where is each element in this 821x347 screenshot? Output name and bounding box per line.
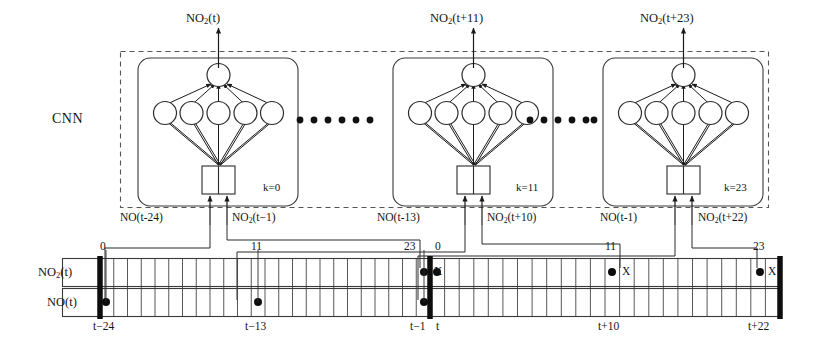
index-marker-future-11: 11	[605, 241, 616, 253]
predicted-marker-23: X	[768, 266, 776, 278]
index-marker-past-23: 23	[404, 241, 416, 253]
input-label-k23-no2: NO2(t+22)	[698, 212, 747, 225]
tick-label-t-1: t−1	[410, 321, 425, 333]
index-marker-past-11: 11	[251, 241, 262, 253]
input-arrows-k23	[675, 196, 692, 225]
cnn-group-label: CNN	[52, 112, 83, 126]
input-label-k11-no: NO(t-13)	[377, 212, 420, 224]
tick-label-t-24: t−24	[93, 321, 114, 333]
k-index-label-k0: k=0	[263, 182, 280, 193]
index-marker-future-23: 23	[753, 241, 765, 253]
tick-label-t10: t+10	[598, 321, 619, 333]
input-arrows-k11	[465, 196, 482, 225]
predicted-marker-0: X	[434, 266, 442, 278]
tick-label-t: t	[436, 321, 439, 333]
output-label-k0: NO2(t)	[186, 12, 220, 26]
k-index-label-k23: k=23	[724, 182, 747, 193]
tick-label-t-13: t−13	[245, 321, 266, 333]
input-label-k0-no: NO(t-24)	[120, 212, 163, 224]
k-index-label-k11: k=11	[516, 182, 538, 193]
predicted-marker-11: X	[622, 266, 630, 278]
timeline-grid	[63, 259, 781, 317]
input-label-k0-no2: NO2(t−1)	[232, 212, 276, 225]
dot-no2-t10	[608, 268, 616, 276]
timeline-row-label-no2: NO2(t)	[38, 266, 72, 280]
input-label-k23-no: NO(t-1)	[600, 212, 637, 224]
output-label-k23: NO2(t+23)	[640, 12, 694, 26]
diagram-vector-layer	[0, 0, 821, 347]
tick-label-t22: t+22	[748, 321, 769, 333]
cell-dividers-past	[114, 259, 417, 317]
connector-k23-no2	[692, 225, 757, 268]
output-label-k11: NO2(t+11)	[430, 12, 483, 26]
ellipsis-dots-left	[297, 117, 374, 124]
input-label-k11-no2: NO2(t+10)	[487, 212, 536, 225]
index-marker-future-0: 0	[435, 241, 441, 253]
input-arrows-k0	[210, 196, 227, 225]
architecture-diagram: CNN NO2(t) k=0 NO(t-24) NO2(t−1) NO2(t+1…	[0, 0, 821, 347]
dot-no2-t22	[756, 268, 764, 276]
cell-dividers-future	[445, 259, 766, 317]
index-marker-past-0: 0	[100, 241, 106, 253]
timeline-row-label-no: NO(t)	[47, 296, 77, 309]
